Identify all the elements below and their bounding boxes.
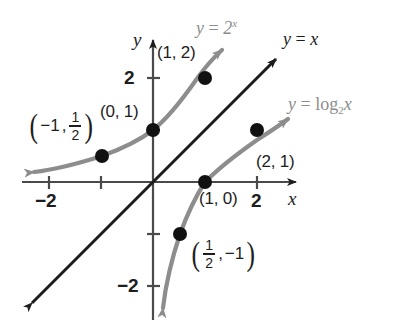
point-1-2 xyxy=(198,71,212,85)
identity-label-op: = xyxy=(296,29,306,49)
fraction-denominator: 2 xyxy=(203,256,215,270)
point-label-0-1: (0, 1) xyxy=(100,103,138,120)
point-label--1-half: ( −1, 1 2 ) xyxy=(28,110,95,142)
point-label-1-2: (1, 2) xyxy=(157,44,195,61)
graph-figure: y x 2 −2 −2 2 y = 2x y = x y = log2x (1,… xyxy=(0,0,400,334)
log-label-lhs: y xyxy=(288,94,296,114)
fraction-one-half: 1 2 xyxy=(68,110,82,142)
coord-y: −1 xyxy=(225,244,244,264)
point-1-0 xyxy=(198,175,212,189)
point-label-half--1: ( 1 2 , −1 ) xyxy=(190,238,257,270)
y-axis-label: y xyxy=(133,30,141,49)
fraction-denominator: 2 xyxy=(69,128,81,142)
exp-label-lhs: y xyxy=(196,18,204,38)
coordinate-plane xyxy=(0,0,400,334)
right-paren: ) xyxy=(247,240,255,267)
log-label-op: = xyxy=(301,94,311,114)
x-tick-label-2: 2 xyxy=(251,191,262,210)
point-label-2-1: (2, 1) xyxy=(256,153,294,170)
point-2-1 xyxy=(250,123,264,137)
left-paren: ( xyxy=(191,240,199,267)
log-label-fn: log xyxy=(315,94,338,114)
exp-label-base: 2 xyxy=(223,18,232,38)
identity-label-lhs: y xyxy=(283,29,291,49)
point-0-1 xyxy=(146,123,160,137)
exp-label-exponent: x xyxy=(232,17,237,29)
point-half--1 xyxy=(173,227,187,241)
right-paren: ) xyxy=(85,112,93,139)
fraction-numerator: 1 xyxy=(203,238,215,252)
y-tick-label-2: 2 xyxy=(124,68,135,87)
point--1-half xyxy=(95,149,109,163)
identity-line-label: y = x xyxy=(283,30,318,48)
fraction-numerator: 1 xyxy=(69,110,81,124)
logarithmic-curve xyxy=(163,119,288,308)
point-label-1-0: (1, 0) xyxy=(199,190,237,207)
log-label-arg: x xyxy=(344,94,352,114)
exponential-curve-label: y = 2x xyxy=(196,19,237,37)
fraction-one-half: 1 2 xyxy=(202,238,216,270)
exp-label-op: = xyxy=(209,18,219,38)
log-label-base: 2 xyxy=(338,104,344,116)
x-axis-label: x xyxy=(288,189,296,208)
identity-label-rhs: x xyxy=(310,29,318,49)
logarithm-curve-label: y = log2x xyxy=(288,95,352,113)
coord-x: −1 xyxy=(40,116,59,136)
y-tick-label--2: −2 xyxy=(117,276,139,295)
coord-comma: , xyxy=(218,244,223,264)
coord-comma: , xyxy=(62,116,67,136)
left-paren: ( xyxy=(29,112,37,139)
x-tick-label--2: −2 xyxy=(35,191,57,210)
